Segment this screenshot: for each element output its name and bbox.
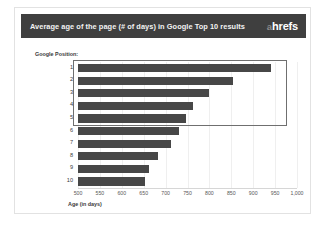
- y-axis-tick-label: 1: [59, 64, 73, 70]
- bar-row: 6: [78, 125, 297, 138]
- x-axis-tick-label: 550: [96, 190, 105, 196]
- bar: [78, 127, 179, 135]
- ahrefs-logo-name: hrefs: [272, 20, 298, 32]
- page-title: Average age of the page (# of days) in G…: [30, 22, 245, 31]
- x-axis-tick-label: 500: [74, 190, 83, 196]
- bar: [78, 165, 149, 173]
- x-axis-tick-label: 750: [183, 190, 192, 196]
- bar-row: 10: [78, 175, 297, 188]
- x-axis-tick-label: 650: [139, 190, 148, 196]
- y-axis-tick-label: 10: [59, 177, 73, 183]
- bar: [78, 114, 186, 122]
- bar-row: 1: [78, 62, 297, 75]
- x-axis-tick-label: 900: [249, 190, 258, 196]
- bar: [78, 177, 145, 185]
- x-axis-line: [78, 188, 297, 189]
- x-axis-title: Age (in days): [68, 201, 102, 207]
- bar-chart: Google Position: 12345678910 Age (in day…: [15, 38, 312, 213]
- y-axis-tick-label: 6: [59, 127, 73, 133]
- y-axis-title: Google Position:: [35, 51, 78, 57]
- bar: [78, 89, 209, 97]
- x-axis-tick-label: 850: [227, 190, 236, 196]
- slide-card: Average age of the page (# of days) in G…: [14, 7, 311, 214]
- bar-row: 7: [78, 138, 297, 151]
- bar: [78, 140, 171, 148]
- bar-row: 5: [78, 112, 297, 125]
- y-axis-tick-label: 4: [59, 101, 73, 107]
- y-axis-tick-label: 7: [59, 139, 73, 145]
- bar: [78, 64, 271, 72]
- bar-row: 2: [78, 75, 297, 88]
- plot-area: 12345678910: [78, 62, 297, 188]
- chart-header-bar: Average age of the page (# of days) in G…: [21, 14, 306, 38]
- x-axis-tick-label: 800: [205, 190, 214, 196]
- bar-row: 4: [78, 100, 297, 113]
- ahrefs-logo: ahrefs: [267, 20, 298, 32]
- x-axis-tick-label: 1,000: [291, 190, 304, 196]
- y-axis-tick-label: 5: [59, 114, 73, 120]
- x-axis-tick-label: 950: [271, 190, 280, 196]
- gridline: [297, 62, 298, 188]
- y-axis-tick-label: 8: [59, 152, 73, 158]
- bar-row: 9: [78, 163, 297, 176]
- y-axis-tick-label: 9: [59, 164, 73, 170]
- y-axis-tick-label: 2: [59, 76, 73, 82]
- bar: [78, 152, 158, 160]
- bar-row: 8: [78, 150, 297, 163]
- x-axis-tick-label: 600: [117, 190, 126, 196]
- x-axis-tick-label: 700: [161, 190, 170, 196]
- bar-row: 3: [78, 87, 297, 100]
- bar: [78, 77, 233, 85]
- y-axis-tick-label: 3: [59, 89, 73, 95]
- bar: [78, 102, 193, 110]
